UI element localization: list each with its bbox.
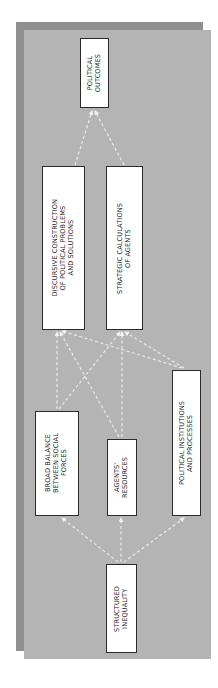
node-political-outcomes: POLITICAL OUTCOMES xyxy=(80,38,109,108)
arrow-institutions-to-strategic xyxy=(125,332,184,368)
node-label: DISCURSIVE CONSTRUCTION OF POLITICAL PRO… xyxy=(52,199,76,296)
node-broad-balance: BROAD BALANCE BETWEEN SOCIAL FORCES xyxy=(35,411,79,516)
node-label: BROAD BALANCE BETWEEN SOCIAL FORCES xyxy=(45,433,69,493)
node-label: POLITICAL INSTITUTIONS AND PROCESSES xyxy=(179,401,195,485)
node-structured-inequality: STRUCTURED INEQUALITY xyxy=(106,564,137,653)
node-discursive-construction: DISCURSIVE CONSTRUCTION OF POLITICAL PRO… xyxy=(42,166,85,330)
node-label: STRATEGIC CALCULATIONS OF AGENTS xyxy=(117,203,133,294)
node-strategic-calculations: STRATEGIC CALCULATIONS OF AGENTS xyxy=(106,166,143,330)
arrow-balance-to-strategic xyxy=(59,332,120,409)
arrow-inequality-to-balance xyxy=(62,518,118,562)
node-label: STRUCTURED INEQUALITY xyxy=(114,586,130,632)
arrow-discursive-to-outcomes xyxy=(75,111,92,165)
node-label: POLITICAL OUTCOMES xyxy=(87,54,103,92)
arrow-strategic-to-outcomes xyxy=(95,111,124,165)
arrow-inequality-to-institutions xyxy=(124,518,184,562)
node-agents-resources: AGENTS' RESOURCES xyxy=(107,439,137,516)
node-political-institutions: POLITICAL INSTITUTIONS AND PROCESSES xyxy=(172,370,201,516)
node-label: AGENTS' RESOURCES xyxy=(114,457,130,498)
